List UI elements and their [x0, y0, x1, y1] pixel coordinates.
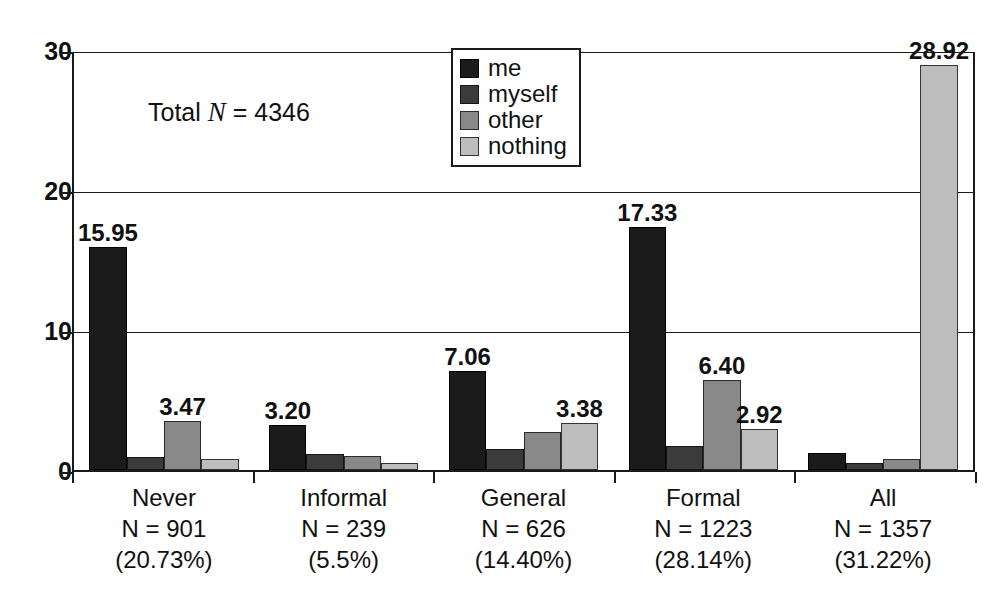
x-category-n: N = 1223: [613, 513, 793, 544]
bar-chart: 0102030 15.953.473.207.063.3817.336.402.…: [0, 0, 999, 595]
bar[interactable]: [524, 432, 561, 470]
bar-group-bars: 17.336.402.92: [629, 52, 778, 470]
bar-group: 28.92: [793, 52, 973, 470]
x-category-n: N = 1357: [793, 513, 973, 544]
y-tick-mark: [61, 472, 72, 474]
x-category-n: N = 901: [74, 513, 254, 544]
legend-swatch-icon: [460, 137, 479, 156]
y-axis: 0102030: [0, 52, 72, 472]
x-category-n: N = 626: [434, 513, 614, 544]
legend-item-label: myself: [488, 81, 557, 107]
x-category-label: InformalN = 239(5.5%): [254, 482, 434, 575]
annotation-italic-n: N: [208, 97, 226, 127]
bar[interactable]: [127, 457, 164, 470]
annotation-prefix: Total: [148, 98, 208, 126]
bar[interactable]: [344, 456, 381, 470]
bar[interactable]: 2.92: [741, 429, 778, 470]
bar[interactable]: 17.33: [629, 227, 666, 470]
x-category-percent: (31.22%): [793, 544, 973, 575]
annotation-suffix: = 4346: [226, 98, 310, 126]
bar-value-label: 6.40: [699, 353, 746, 379]
bar[interactable]: [666, 446, 703, 470]
bar[interactable]: 7.06: [449, 371, 486, 470]
bar[interactable]: [883, 459, 920, 470]
bar-group-bars: 28.92: [808, 52, 957, 470]
bar[interactable]: 3.47: [164, 421, 201, 470]
bar[interactable]: 3.20: [269, 425, 306, 470]
y-tick-mark: [61, 332, 72, 334]
legend-item-label: other: [488, 107, 543, 133]
x-category-percent: (28.14%): [613, 544, 793, 575]
x-category-percent: (20.73%): [74, 544, 254, 575]
x-category-label: AllN = 1357(31.22%): [793, 482, 973, 575]
x-category-label: NeverN = 901(20.73%): [74, 482, 254, 575]
x-category-name: Informal: [254, 482, 434, 513]
x-category-n: N = 239: [254, 513, 434, 544]
bar-value-label: 3.38: [556, 396, 603, 422]
x-category-percent: (14.40%): [434, 544, 614, 575]
bar-value-label: 3.47: [159, 394, 206, 420]
y-tick-mark: [61, 52, 72, 54]
total-n-annotation: Total N = 4346: [148, 98, 310, 126]
x-category-name: All: [793, 482, 973, 513]
x-axis-labels: NeverN = 901(20.73%)InformalN = 239(5.5%…: [74, 482, 973, 575]
bar-value-label: 15.95: [78, 220, 138, 246]
bar[interactable]: [846, 463, 883, 470]
legend-item[interactable]: me: [460, 55, 567, 81]
legend-swatch-icon: [460, 85, 479, 104]
bar-group: 17.336.402.92: [613, 52, 793, 470]
bar[interactable]: 28.92: [920, 65, 957, 470]
x-category-name: Never: [74, 482, 254, 513]
x-tick-mark: [975, 472, 977, 483]
legend-swatch-icon: [460, 59, 479, 78]
bar-value-label: 28.92: [909, 38, 969, 64]
bar-value-label: 7.06: [444, 344, 491, 370]
bar[interactable]: 15.95: [89, 247, 126, 470]
legend-item[interactable]: other: [460, 107, 567, 133]
legend-item-label: nothing: [488, 133, 567, 159]
legend-item[interactable]: nothing: [460, 133, 567, 159]
x-category-name: General: [434, 482, 614, 513]
bar[interactable]: [486, 449, 523, 470]
x-category-percent: (5.5%): [254, 544, 434, 575]
legend: memyselfothernothing: [451, 48, 581, 167]
x-category-label: FormalN = 1223(28.14%): [613, 482, 793, 575]
bar[interactable]: [201, 459, 238, 470]
y-tick-mark: [61, 192, 72, 194]
legend-swatch-icon: [460, 111, 479, 130]
bar[interactable]: [808, 453, 845, 470]
bar-value-label: 17.33: [617, 200, 677, 226]
x-category-label: GeneralN = 626(14.40%): [434, 482, 614, 575]
bar[interactable]: [306, 454, 343, 470]
bar-value-label: 2.92: [736, 402, 783, 428]
bar-value-label: 3.20: [264, 398, 311, 424]
bar[interactable]: 3.38: [561, 423, 598, 470]
legend-item-label: me: [488, 55, 521, 81]
x-category-name: Formal: [613, 482, 793, 513]
legend-item[interactable]: myself: [460, 81, 567, 107]
bar[interactable]: [381, 463, 418, 470]
